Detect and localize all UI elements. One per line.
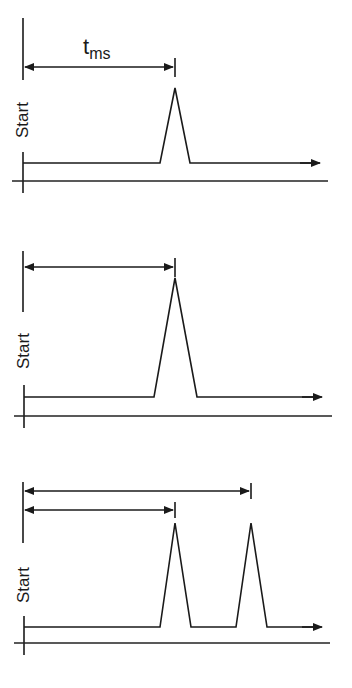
start-label: Start [13, 102, 32, 138]
signal-trace [24, 523, 314, 627]
panel-1: tms Start [12, 18, 328, 193]
timing-diagram: tms Start Start Start [0, 0, 352, 688]
start-label: Start [14, 567, 33, 603]
signal-trace [23, 88, 312, 163]
panel-2: Start [14, 251, 332, 428]
signal-trace [24, 278, 314, 397]
start-label: Start [14, 333, 33, 369]
panel-3: Start [14, 482, 330, 655]
time-label: tms [83, 34, 110, 62]
